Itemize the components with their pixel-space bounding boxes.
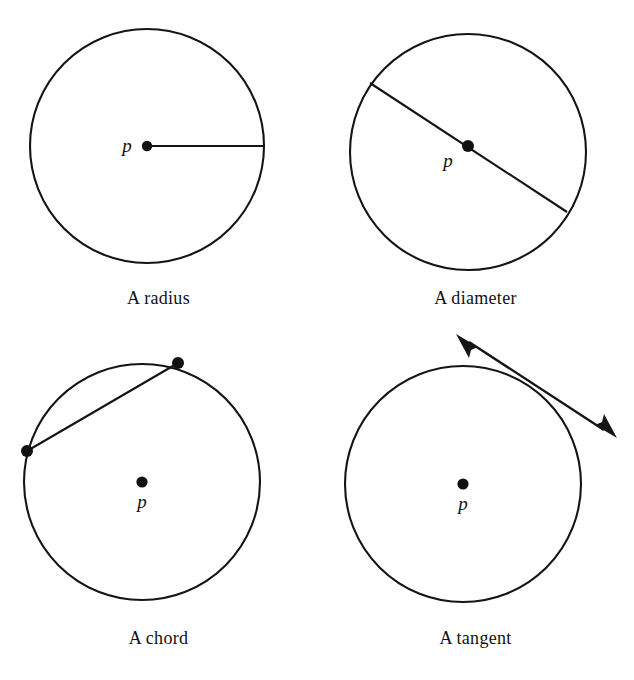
caption-chord: A chord [0, 628, 317, 649]
center-point-label: p [120, 135, 132, 156]
tangent-arrowhead-lower-right [595, 414, 617, 438]
center-point-label: p [441, 150, 453, 171]
circle-terminology-figure: p A radius p A diameter p A chord [0, 0, 634, 680]
center-point-dot [457, 478, 468, 489]
panel-diameter: p A diameter [317, 0, 634, 340]
center-point-label: p [456, 493, 468, 514]
caption-diameter: A diameter [317, 288, 634, 309]
center-point-dot [462, 140, 474, 152]
tangent-line [469, 342, 604, 430]
center-point-label: p [135, 491, 147, 512]
center-point-dot [136, 476, 147, 487]
panel-chord: p A chord [0, 340, 317, 680]
chord-endpoint-dot-left [21, 445, 33, 457]
center-point-dot [142, 141, 152, 151]
caption-radius: A radius [0, 288, 317, 309]
caption-tangent: A tangent [317, 628, 634, 649]
panel-tangent: p A tangent [317, 340, 634, 680]
chord-endpoint-dot-right [172, 357, 184, 369]
panel-radius: p A radius [0, 0, 317, 340]
